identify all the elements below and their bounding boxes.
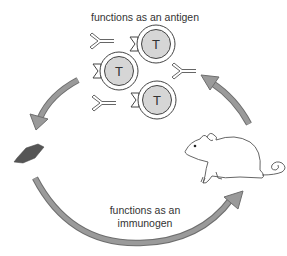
antibody-icon <box>90 33 114 49</box>
antibody-icon <box>92 95 116 111</box>
t-cell-icon: T <box>130 25 175 63</box>
molecule-icon <box>14 144 44 163</box>
t-cell-label: T <box>152 37 160 52</box>
immunogen-label-line2: immunogen <box>95 217 195 230</box>
arrow-to-t-cells-icon <box>201 75 249 124</box>
t-cell-label: T <box>153 93 161 108</box>
t-cell-icon: T <box>131 81 176 119</box>
immunogen-label-line1: functions as an <box>95 204 195 217</box>
antigen-label: functions as an antigen <box>80 11 210 24</box>
antibody-icon <box>172 63 196 79</box>
mouse-icon <box>185 133 285 183</box>
t-cell-label: T <box>115 64 123 79</box>
arrow-to-molecule-icon <box>30 80 78 130</box>
immunogen-label: functions as an immunogen <box>95 204 195 230</box>
t-cell-icon: T <box>93 52 138 90</box>
